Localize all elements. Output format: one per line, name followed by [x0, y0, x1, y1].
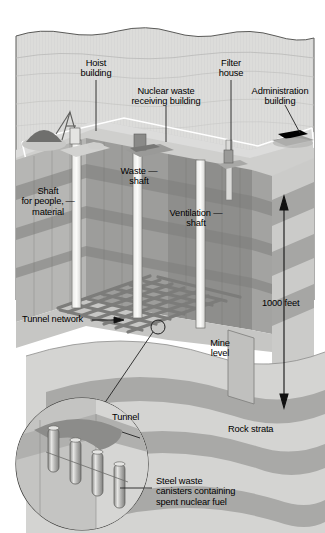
label-administration-building: Administration building — [240, 86, 320, 107]
label-shaft-for-people: Shaft for people, — material — [10, 186, 86, 217]
label-waste-shaft: Waste — shaft — [110, 166, 168, 187]
label-canisters: Steel waste canisters containing spent n… — [156, 476, 235, 507]
ventilation-shaft — [196, 160, 205, 328]
label-nuclear-waste-receiving-building: Nuclear waste receiving building — [118, 86, 214, 107]
label-tunnel: Tunnel — [112, 412, 139, 422]
label-tunnel-network: Tunnel network — [22, 314, 83, 324]
label-ventilation-shaft: Ventilation — shaft — [158, 208, 234, 229]
figure-root: Hoist building Nuclear waste receiving b… — [0, 0, 325, 533]
repository-cutaway-diagram — [0, 0, 325, 533]
label-hoist-building: Hoist building — [60, 58, 132, 79]
label-mine-level: Mine level — [198, 338, 242, 359]
label-filter-house: Filter house — [203, 58, 259, 79]
label-depth-measure: 1000 feet — [262, 298, 299, 308]
label-rock-strata: Rock strata — [228, 424, 273, 434]
shaft-for-people — [72, 140, 81, 308]
